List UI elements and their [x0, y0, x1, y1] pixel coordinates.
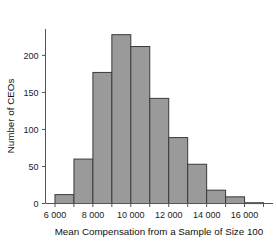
histogram-bar: [169, 138, 188, 204]
x-tick-label: 16 000: [231, 210, 259, 220]
x-tick-label: 10 000: [117, 210, 145, 220]
histogram-plot: 050100150200 6 0008 00010 00012 00014 00…: [0, 0, 277, 242]
histogram-bars: [55, 35, 264, 204]
histogram-bar: [74, 159, 93, 203]
histogram-bar: [131, 47, 150, 204]
histogram-bar: [150, 98, 169, 203]
y-axis-ticks: 050100150200: [23, 51, 45, 209]
histogram-bar: [55, 195, 74, 204]
histogram-bar: [112, 35, 131, 204]
y-tick-label: 200: [23, 51, 38, 61]
y-tick-label: 100: [23, 125, 38, 135]
histogram-bar: [226, 197, 245, 204]
histogram-figure: 050100150200 6 0008 00010 00012 00014 00…: [0, 0, 277, 242]
x-axis-ticks: 6 0008 00010 00012 00014 00016 000: [44, 204, 264, 220]
y-tick-label: 50: [28, 162, 38, 172]
y-axis-title: Number of CEOs: [5, 79, 16, 154]
x-tick-label: 6 000: [44, 210, 67, 220]
histogram-bar: [207, 190, 226, 203]
y-tick-label: 0: [33, 199, 38, 209]
x-tick-label: 12 000: [155, 210, 183, 220]
histogram-bar: [188, 164, 207, 203]
x-axis-title: Mean Compensation from a Sample of Size …: [55, 226, 264, 237]
x-tick-label: 14 000: [193, 210, 221, 220]
y-tick-label: 150: [23, 88, 38, 98]
histogram-bar: [93, 72, 112, 203]
x-tick-label: 8 000: [82, 210, 105, 220]
